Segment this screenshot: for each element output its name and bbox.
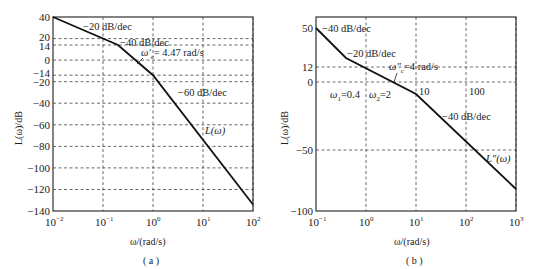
- chart-a-annotation-slope-60: −60 dB/dec: [178, 87, 227, 98]
- svg-text:−20: −20: [33, 76, 51, 88]
- svg-text:100: 100: [359, 215, 374, 228]
- chart-b-annotation-crossover: ω″c=4 rad/s: [389, 61, 438, 82]
- svg-text:ω″c=4 rad/s: ω″c=4 rad/s: [389, 61, 438, 75]
- svg-text:12: 12: [302, 61, 313, 73]
- chart-b-annotation-slope-20: −20 dB/dec: [347, 48, 396, 59]
- chart-a-annotation-crossover: ω′c= 4.47 rad/s: [137, 47, 204, 64]
- svg-text:0: 0: [45, 54, 51, 66]
- svg-text:10−2: 10−2: [45, 215, 64, 228]
- chart-b-xlabel: ω/(rad/s): [394, 236, 429, 248]
- chart-b-caption: ( b ): [406, 255, 423, 267]
- chart-a-x-ticks: 10−2 10−1 100 101 102: [45, 215, 261, 228]
- chart-b-y-ticks: 50 12 0 −50 −100: [290, 22, 313, 217]
- bode-plots: 40 20 14 0 −14 −20 −40 −60 −80 −100 −120…: [0, 0, 535, 269]
- svg-text:10−1: 10−1: [95, 215, 114, 228]
- svg-text:−100: −100: [27, 162, 50, 174]
- svg-text:102: 102: [459, 215, 474, 228]
- svg-text:ω′c= 4.47 rad/s: ω′c= 4.47 rad/s: [141, 47, 204, 61]
- chart-b: 50 12 0 −50 −100 10−1 100 101 102 103 −4…: [279, 17, 524, 267]
- chart-a: 40 20 14 0 −14 −20 −40 −60 −80 −100 −120…: [13, 11, 261, 267]
- svg-text:101: 101: [196, 215, 211, 228]
- svg-text:0: 0: [308, 76, 314, 88]
- svg-text:100: 100: [146, 215, 161, 228]
- svg-text:40: 40: [39, 11, 51, 23]
- svg-text:−120: −120: [27, 183, 50, 195]
- chart-b-annotation-100: 100: [469, 86, 485, 97]
- chart-a-ylabel: L(ω)/dB: [13, 111, 25, 145]
- chart-b-x-ticks: 10−1 100 101 102 103: [308, 215, 524, 228]
- svg-text:−50: −50: [296, 144, 314, 156]
- chart-b-curve-label: L″(ω): [485, 153, 511, 165]
- chart-b-annotation-slope-40a: −40 dB/dec: [322, 23, 371, 34]
- chart-a-y-ticks: 40 20 14 0 −14 −20 −40 −60 −80 −100 −120…: [27, 11, 50, 217]
- chart-b-annotation-slope-40b: −40 dB/dec: [442, 111, 491, 122]
- chart-b-ylabel: L(ω)/dB: [279, 111, 291, 145]
- chart-a-caption: ( a ): [143, 255, 159, 267]
- svg-text:50: 50: [302, 22, 314, 34]
- chart-b-annotation-10: 10: [419, 86, 430, 97]
- chart-a-annotation-slope-20: −20 dB/dec: [83, 21, 132, 32]
- svg-text:102: 102: [246, 215, 261, 228]
- chart-b-annotation-omega2: ω2=2: [369, 89, 391, 103]
- chart-a-xlabel: ω/(rad/s): [130, 236, 165, 248]
- svg-text:103: 103: [509, 215, 524, 228]
- svg-text:−80: −80: [33, 140, 51, 152]
- svg-text:−60: −60: [33, 119, 51, 131]
- svg-text:14: 14: [39, 40, 51, 52]
- svg-text:−40: −40: [33, 97, 51, 109]
- svg-text:101: 101: [409, 215, 424, 228]
- chart-b-annotation-omega1: ω1=0.4: [330, 89, 361, 103]
- chart-a-curve-label: L(ω): [204, 125, 226, 137]
- svg-text:10−1: 10−1: [308, 215, 327, 228]
